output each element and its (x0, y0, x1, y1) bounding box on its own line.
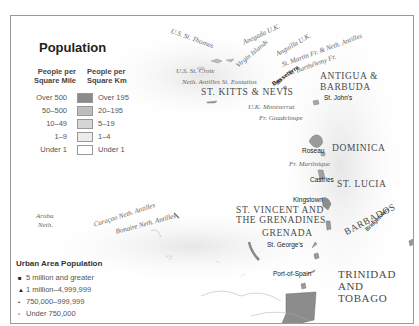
label-montserrat: U.K. Montserrat (248, 104, 294, 111)
trinidad-island (280, 292, 316, 323)
legend-mile-value: 1–9 (54, 132, 67, 141)
triangle-marker-icon: ▲ (18, 287, 26, 293)
square-marker-icon: ■ (18, 275, 26, 281)
label-aruba: Aruba (36, 213, 54, 220)
label-castries: Castries (310, 177, 334, 184)
legend-title: Population (39, 40, 106, 55)
urban-legend-row: ■5 million and greater (18, 273, 94, 282)
urban-legend-title: Urban Area Population (16, 259, 102, 268)
urban-legend-label: 750,000–999,999 (26, 297, 84, 306)
label-tobago: TOBAGO (338, 293, 387, 304)
legend-row: 50–500 20–195 (11, 106, 151, 118)
urban-legend-label: Under 750,000 (26, 309, 76, 318)
legend-mile-value: 50–500 (42, 106, 67, 115)
label-barbuda: BARBUDA (320, 83, 371, 93)
urban-legend-row: •750,000–999,999 (18, 297, 84, 306)
label-dominica: DOMINICA (332, 144, 385, 154)
label-aruba-neth: Neth. (38, 222, 53, 229)
label-antigua: ANTIGUA & (320, 72, 378, 82)
label-kingstown: Kingstown (293, 197, 323, 204)
urban-legend-row: ▲1 million–4,999,999 (18, 285, 91, 294)
legend-row: Over 500 Over 195 (11, 93, 151, 105)
legend-swatch (77, 145, 93, 155)
legend-col-left-header: People per Square Mile (18, 67, 76, 85)
legend-row: 1–9 1–4 (11, 132, 151, 144)
legend-km-value: 1–4 (98, 132, 111, 141)
legend-mile-value: Under 1 (40, 145, 67, 154)
label-st-georges: St. George's (267, 242, 303, 249)
dot-marker-icon: • (18, 299, 26, 305)
label-and: AND (338, 281, 364, 292)
legend-row: 10–49 5–19 (11, 119, 151, 131)
urban-legend-label: 5 million and greater (26, 273, 94, 282)
map-frame: Population People per Square Mile People… (10, 15, 414, 324)
legend-km-value: Under 1 (98, 145, 125, 154)
label-grenada: GRENADA (262, 229, 313, 239)
legend-swatch (77, 93, 93, 103)
urban-legend-label: 1 million–4,999,999 (26, 285, 91, 294)
urban-legend-row: ▫Under 750,000 (18, 309, 76, 318)
legend-row: Under 1 Under 1 (11, 145, 151, 157)
label-martinique: Fr. Martinique (289, 161, 330, 168)
legend-col-right-header: People per Square Km (87, 67, 147, 85)
label-guadeloupe: Fr. Guadeloupe (259, 115, 303, 122)
legend-mile-value: 10–49 (46, 119, 67, 128)
small-square-marker-icon: ▫ (18, 311, 26, 317)
legend-swatch (77, 132, 93, 142)
label-grenadines: THE GRENADINES (236, 216, 326, 226)
label-st-kitts-nevis: ST. KITTS & NEVIS (201, 88, 293, 98)
label-st-croix: U.S. St. Croix (176, 68, 214, 75)
label-roseau: Roseau (302, 148, 324, 155)
label-trinidad: TRINIDAD (338, 269, 396, 280)
label-st-lucia: ST. LUCIA (337, 180, 387, 190)
legend-km-value: Over 195 (98, 93, 129, 102)
label-st-eustatius: Neth. Antilles St. Eustatius (182, 79, 257, 86)
label-st-johns: St. John's (324, 95, 352, 102)
label-port-of-spain: Port-of-Spain (273, 271, 311, 278)
legend-swatch (77, 106, 93, 116)
legend-km-value: 5–19 (98, 119, 115, 128)
legend-km-value: 20–195 (98, 106, 123, 115)
st-lucia-island (326, 221, 331, 230)
legend-mile-value: Over 500 (36, 93, 67, 102)
legend-swatch (77, 119, 93, 129)
